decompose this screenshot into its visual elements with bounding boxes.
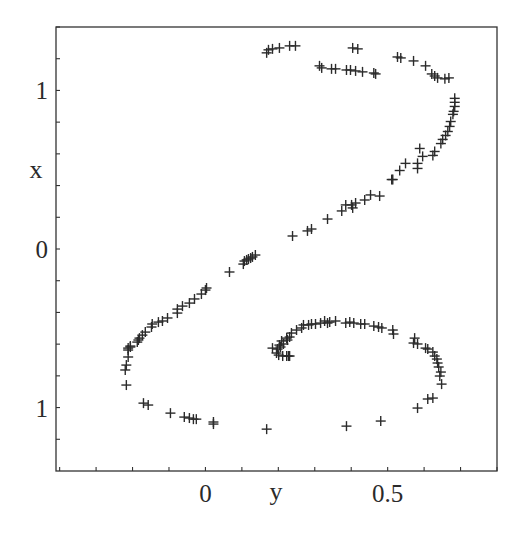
cross-marker <box>202 283 212 293</box>
cross-marker <box>348 43 358 53</box>
cross-marker <box>262 424 272 434</box>
cross-marker <box>165 408 175 418</box>
cross-marker <box>317 63 327 73</box>
cross-marker <box>121 360 131 370</box>
cross-marker <box>445 121 455 131</box>
cross-marker <box>437 379 447 389</box>
cross-marker <box>325 317 335 327</box>
x-axis-tick-labels: 00.5 <box>199 480 403 507</box>
y-tick-label: 0 <box>36 236 49 263</box>
cross-marker <box>290 41 300 51</box>
cross-marker <box>395 166 405 176</box>
cross-marker <box>413 403 423 413</box>
cross-marker <box>208 417 218 427</box>
scatter-chart: 101 00.5 x y <box>0 0 526 536</box>
x-tick-label: 0.5 <box>372 480 403 507</box>
cross-marker <box>409 56 419 66</box>
data-points <box>120 41 459 434</box>
cross-marker <box>351 66 361 76</box>
cross-marker <box>369 321 379 331</box>
plot-frame <box>56 27 497 471</box>
cross-marker <box>423 394 433 404</box>
x-tick-label: 0 <box>199 480 212 507</box>
cross-marker <box>446 117 456 127</box>
cross-marker <box>331 316 341 326</box>
y-tick-label: 1 <box>36 77 49 104</box>
cross-marker <box>376 416 386 426</box>
cross-marker <box>179 412 189 422</box>
cross-marker <box>387 175 397 185</box>
y-axis-tick-labels: 101 <box>36 77 49 421</box>
x-axis-label: y <box>270 477 283 506</box>
cross-marker <box>401 158 411 168</box>
cross-marker <box>123 352 133 362</box>
cross-marker <box>341 421 351 431</box>
cross-marker <box>121 380 131 390</box>
cross-marker <box>224 267 234 277</box>
cross-marker <box>421 61 431 71</box>
cross-marker <box>143 400 153 410</box>
cross-marker <box>353 44 363 54</box>
cross-marker <box>371 69 381 79</box>
cross-marker <box>274 43 284 53</box>
y-tick-label: 1 <box>36 395 49 422</box>
cross-marker <box>369 68 379 78</box>
cross-marker <box>288 231 298 241</box>
cross-marker <box>428 393 438 403</box>
y-axis-label: x <box>30 155 43 184</box>
cross-marker <box>138 398 148 408</box>
cross-marker <box>120 365 130 375</box>
cross-marker <box>360 195 370 205</box>
cross-marker <box>375 191 385 201</box>
cross-marker <box>323 214 333 224</box>
cross-marker <box>366 190 376 200</box>
cross-marker <box>413 163 423 173</box>
cross-marker <box>358 67 368 77</box>
cross-marker <box>315 61 325 71</box>
